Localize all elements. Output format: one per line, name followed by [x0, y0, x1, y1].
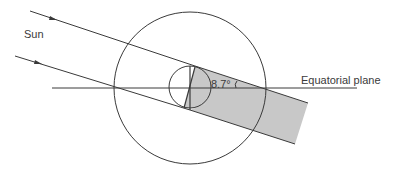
arrow-icon [34, 60, 42, 64]
diagram-canvas [0, 0, 398, 174]
arrow-icon [49, 16, 57, 20]
tilt-angle-label: 8.7° [211, 79, 231, 90]
equatorial-plane-label: Equatorial plane [301, 75, 381, 86]
orbit-diagram: Sun Equatorial plane 8.7° [0, 0, 398, 174]
sun-label: Sun [24, 29, 44, 40]
sun-ray-lower [15, 56, 190, 110]
